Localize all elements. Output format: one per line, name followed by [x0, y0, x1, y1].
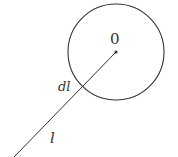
diagram-canvas: 0 dl l: [0, 0, 178, 157]
dl-label: dl: [58, 79, 70, 94]
l-label: l: [50, 129, 55, 147]
line-l: [14, 52, 116, 157]
center-point: [114, 50, 117, 53]
center-label: 0: [110, 30, 120, 48]
